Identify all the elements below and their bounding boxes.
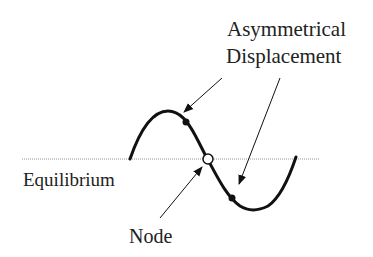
displacement-point-upper [183,119,190,126]
node-point [203,154,213,164]
label-displacement: Displacement [226,44,342,68]
label-node: Node [129,225,172,247]
arrow-node [160,167,202,218]
label-equilibrium: Equilibrium [23,169,115,190]
arrow-lower [239,78,280,184]
label-asymmetrical: Asymmetrical [227,17,346,41]
wave-diagram: Asymmetrical Displacement Equilibrium No… [0,0,373,257]
displacement-point-lower [229,195,236,202]
arrow-upper [184,78,222,112]
